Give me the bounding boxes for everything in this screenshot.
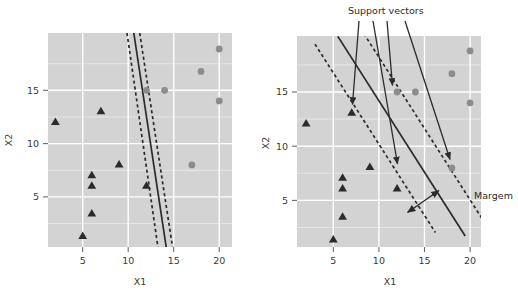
x-tick-label-20: 20: [213, 255, 225, 266]
x-axis-ticks: [83, 247, 220, 252]
y-tick-label-5: 5: [33, 191, 39, 202]
x-axis-title: X1: [134, 276, 147, 287]
y-axis-title: X2: [3, 134, 14, 147]
x-axis-ticks: [333, 247, 470, 252]
margin-label: Margem: [474, 190, 513, 201]
y-axis-title: X2: [260, 137, 271, 150]
x-tick-label-15: 15: [168, 255, 180, 266]
x-tick-label-5: 5: [80, 255, 86, 266]
left-panel: 15 10 5 5 10 15 20 X1 X2: [0, 0, 259, 296]
data-point-circle: [449, 70, 456, 77]
data-point-circle-support: [449, 165, 456, 172]
plot-background: [297, 36, 481, 247]
right-panel-svg: Support vectors Margem 15 10 5 5 10: [259, 0, 518, 296]
data-point-circle: [161, 87, 168, 94]
left-panel-svg: 15 10 5 5 10 15 20 X1 X2: [0, 0, 259, 296]
y-tick-label-5: 5: [282, 195, 288, 206]
support-vectors-label: Support vectors: [348, 5, 424, 16]
x-tick-label-15: 15: [418, 255, 430, 266]
svm-margin-figure: 15 10 5 5 10 15 20 X1 X2: [0, 0, 518, 296]
data-point-circle: [216, 46, 223, 53]
right-panel: Support vectors Margem 15 10 5 5 10: [259, 0, 518, 296]
data-point-circle: [467, 99, 474, 106]
y-tick-label-15: 15: [276, 86, 288, 97]
y-axis-ticks: [43, 90, 48, 197]
data-point-circle: [412, 89, 419, 96]
data-point-circle: [216, 98, 223, 105]
data-point-circle: [198, 68, 205, 75]
y-tick-label-10: 10: [276, 141, 288, 152]
y-tick-label-10: 10: [27, 138, 39, 149]
x-tick-label-20: 20: [464, 255, 476, 266]
data-point-circle: [189, 162, 196, 169]
x-tick-label-5: 5: [330, 255, 336, 266]
y-axis-ticks: [292, 92, 297, 200]
y-tick-label-15: 15: [27, 85, 39, 96]
x-tick-label-10: 10: [373, 255, 385, 266]
data-point-circle: [467, 48, 474, 55]
data-point-circle-support: [394, 89, 401, 96]
data-point-circle: [143, 87, 150, 94]
plot-background: [48, 33, 232, 247]
x-tick-label-10: 10: [122, 255, 134, 266]
x-axis-title: X1: [384, 276, 397, 287]
